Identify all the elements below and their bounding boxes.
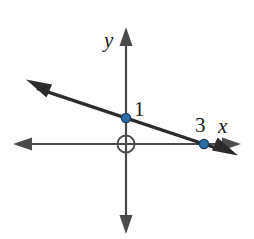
y-axis-label: y [102,28,114,52]
x-intercept-point [199,139,208,148]
y-axis-top-arrow-icon [120,27,133,46]
x-axis-left-arrow-icon [13,138,32,151]
x-intercept-label: 3 [195,113,206,137]
axes-group [13,27,241,234]
coordinate-graph-figure: y x 1 3 [0,0,254,239]
graph-canvas: y x 1 3 [0,0,254,239]
y-intercept-label: 1 [134,97,145,121]
y-intercept-point [121,113,130,122]
plotted-line-left-arrow-icon [26,80,52,98]
y-axis-bottom-arrow-icon [120,215,133,234]
x-axis-label: x [217,114,228,138]
